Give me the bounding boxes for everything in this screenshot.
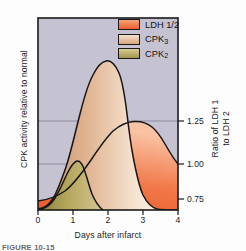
figure-caption: FIGURE 10-15 [2, 243, 55, 251]
legend-swatch-ldh [118, 19, 140, 30]
legend-label-ldh: LDH 1/2 [145, 20, 179, 30]
x-tick-label-0: 0 [36, 215, 41, 225]
y-tick-label-100: 1.00 [187, 159, 204, 169]
y-tick-label-075: 0.75 [187, 194, 204, 204]
legend-label-cpk2: CPK2 [145, 49, 168, 59]
x-axis-title: Days after infarct [38, 230, 178, 240]
y-tick-label-125: 1.25 [187, 116, 204, 126]
x-tick-label-3: 3 [141, 215, 146, 225]
legend-swatch-cpk3 [118, 34, 140, 45]
legend-item-cpk3: CPK3 [118, 34, 179, 45]
legend-item-cpk2: CPK2 [118, 48, 179, 59]
x-tick-label-4: 4 [176, 215, 181, 225]
y-axis-right-title: Ratio of LDH 1 to LDH 2 [210, 69, 231, 189]
x-tick-label-1: 1 [71, 215, 76, 225]
legend-swatch-cpk2 [118, 48, 140, 59]
y-axis-right-title-line2: to LDH 2 [220, 69, 231, 189]
figure-container: LDH 1/2 CPK3 CPK2 CPK activity relative … [0, 0, 246, 251]
y-axis-left-title: CPK activity relative to normal [19, 29, 29, 189]
legend-item-ldh: LDH 1/2 [118, 19, 179, 30]
x-tick-label-2: 2 [106, 215, 111, 225]
chart-legend: LDH 1/2 CPK3 CPK2 [118, 19, 179, 59]
legend-label-cpk3: CPK3 [145, 34, 168, 44]
y-axis-right-title-line1: Ratio of LDH 1 [210, 100, 220, 158]
